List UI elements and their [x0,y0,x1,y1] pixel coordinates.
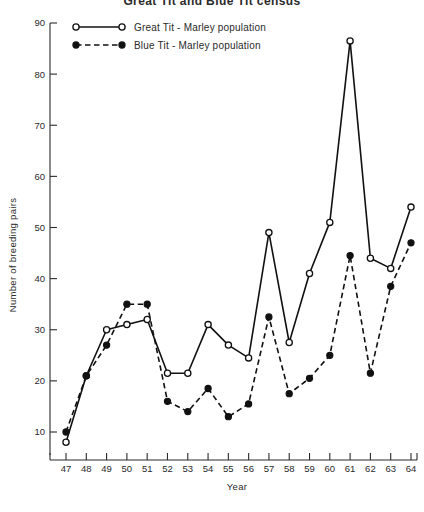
x-tick-label: 57 [264,463,275,474]
y-axis: 102030405060708090 [34,17,57,455]
data-point-marker [246,355,252,361]
y-tick-label: 60 [34,171,45,182]
legend-sample-marker [119,24,125,30]
y-tick-label: 30 [34,324,45,335]
x-tick-label: 54 [203,463,214,474]
x-tick-label: 58 [284,463,295,474]
data-point-marker [306,375,312,381]
x-tick-label: 53 [182,463,193,474]
y-tick-label: 90 [34,17,45,28]
data-point-marker [63,429,69,435]
data-point-marker [306,270,312,276]
y-tick-label: 40 [34,273,45,284]
data-point-marker [124,301,130,307]
data-point-marker [388,265,394,271]
x-tick-label: 49 [101,463,112,474]
x-tick-label: 52 [162,463,173,474]
y-tick-label: 70 [34,120,45,131]
data-point-marker [205,385,211,391]
data-point-marker [367,370,373,376]
x-tick-label: 51 [142,463,153,474]
legend-label: Great Tit - Marley population [134,22,266,33]
data-point-marker [347,253,353,259]
y-tick-label: 10 [34,426,45,437]
y-tick-label: 20 [34,375,45,386]
chart-legend: Great Tit - Marley populationBlue Tit - … [73,22,266,51]
data-point-marker [225,414,231,420]
series-line-1 [66,41,411,442]
x-tick-label: 62 [365,463,376,474]
data-point-marker [83,373,89,379]
data-point-marker [388,283,394,289]
data-point-marker [347,38,353,44]
data-point-marker [266,314,272,320]
data-point-marker [63,439,69,445]
x-tick-label: 61 [345,463,356,474]
x-tick-label: 59 [304,463,315,474]
data-series-group [63,38,414,446]
x-axis: 474849505152535455565758596061626364 [50,453,417,474]
data-point-marker [327,352,333,358]
chart-container: Great Tit and Blue Tit census 1020304050… [0,0,424,512]
x-tick-label: 50 [122,463,133,474]
data-point-marker [205,322,211,328]
data-point-marker [225,342,231,348]
x-tick-label: 55 [223,463,234,474]
data-point-marker [408,204,414,210]
data-point-marker [104,342,110,348]
data-point-marker [246,401,252,407]
data-point-marker [408,240,414,246]
legend-label: Blue Tit - Marley population [134,40,261,51]
data-point-marker [286,391,292,397]
data-point-marker [144,301,150,307]
series-line-2 [66,243,411,432]
data-point-marker [327,219,333,225]
x-tick-label: 47 [61,463,72,474]
data-point-marker [104,327,110,333]
legend-sample-marker [73,42,79,48]
x-tick-label: 56 [243,463,254,474]
data-point-marker [286,339,292,345]
y-axis-title: Number of breeding pairs [7,198,18,312]
x-axis-title: Year [227,481,247,492]
data-point-marker [185,370,191,376]
y-tick-label: 50 [34,222,45,233]
legend-sample-marker [73,24,79,30]
chart-plot-area: 102030405060708090 474849505152535455565… [0,0,424,512]
data-point-marker [124,322,130,328]
x-tick-label: 63 [385,463,396,474]
x-tick-label: 64 [406,463,417,474]
x-tick-label: 48 [81,463,92,474]
x-tick-label: 60 [325,463,336,474]
data-point-marker [367,255,373,261]
data-point-marker [185,409,191,415]
data-point-marker [266,230,272,236]
y-tick-label: 80 [34,69,45,80]
data-point-marker [164,398,170,404]
data-point-marker [164,370,170,376]
legend-sample-marker [119,42,125,48]
